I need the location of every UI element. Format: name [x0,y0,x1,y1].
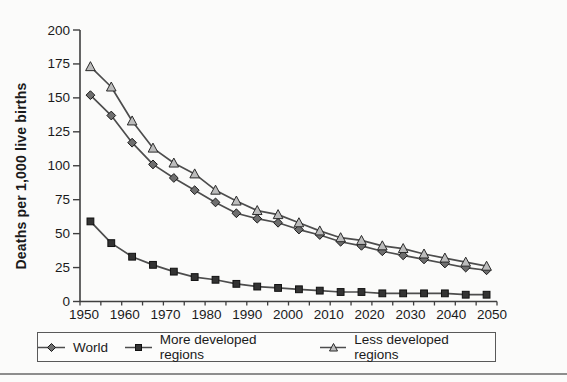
legend-entry-world: World [38,340,108,355]
y-tick-label: 50 [55,226,70,241]
y-tick-label: 125 [47,124,70,139]
more-developed-square-legend-icon [125,342,152,353]
series-more-developed-regions [87,218,490,298]
x-tick-label: 2020 [355,307,385,322]
y-tick-label: 100 [47,158,70,173]
x-axis-ticks [80,302,497,306]
y-tick-label: 175 [47,56,70,71]
x-tick-label: 2010 [314,307,344,322]
y-axis-ticks: 0255075100125150175200 [47,23,80,310]
chart-legend: World More developed regions Less develo… [37,332,496,362]
legend-label-less-developed: Less developed regions [354,332,495,362]
world-diamond-legend-icon [38,342,65,353]
y-tick-label: 75 [55,192,70,207]
legend-label-more-developed: More developed regions [160,332,303,362]
series-world [86,91,491,275]
x-axis-labels: 1950196019701980199020002010202020302040… [69,307,507,322]
x-tick-label: 1990 [232,307,262,322]
x-tick-label: 2050 [477,307,507,322]
legend-label-world: World [73,340,108,355]
page-divider-rule [0,373,567,375]
series-less-developed-regions [86,62,492,271]
figure-page: 0255075100125150175200195019601970198019… [0,0,567,382]
x-tick-label: 1980 [191,307,221,322]
y-tick-label: 200 [47,23,70,38]
x-tick-label: 1960 [110,307,140,322]
x-tick-label: 2040 [436,307,466,322]
x-tick-label: 1950 [69,307,99,322]
y-axis-title: Deaths per 1,000 live births [13,83,29,270]
x-tick-label: 2030 [395,307,425,322]
infant-mortality-line-chart: 0255075100125150175200195019601970198019… [0,0,567,330]
legend-entry-less-developed: Less developed regions [320,332,495,362]
x-tick-label: 1970 [151,307,181,322]
legend-entry-more-developed: More developed regions [125,332,303,362]
less-developed-triangle-legend-icon [320,342,347,353]
y-tick-label: 25 [55,260,70,275]
y-tick-label: 150 [47,90,70,105]
x-tick-label: 2000 [273,307,303,322]
